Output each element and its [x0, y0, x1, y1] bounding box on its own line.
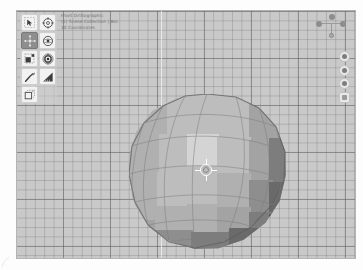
nav-button-camera[interactable] — [339, 78, 350, 89]
scale-corner-icon — [24, 53, 36, 65]
sphere-object[interactable] — [129, 94, 286, 249]
facet — [149, 230, 193, 254]
facet — [269, 138, 289, 184]
cursor-tick-north — [206, 159, 207, 164]
gizmo-axis-y-positive[interactable] — [340, 21, 346, 27]
facet — [167, 94, 212, 136]
gizmo-axis-x-negative[interactable] — [316, 21, 322, 27]
viewport-info-overlay: Front Orthographic (1) Scene Collection … — [61, 13, 118, 32]
viewport-3d[interactable]: Front Orthographic (1) Scene Collection … — [16, 10, 356, 259]
pencil-icon — [24, 71, 36, 83]
gizmo-axis-line-x — [321, 23, 332, 24]
rotate-gizmo-icon — [42, 35, 54, 47]
move-arrows-icon — [24, 35, 36, 47]
cursor-ring-inner — [203, 167, 209, 173]
zoom-icon — [342, 54, 347, 59]
cursor-tick-west — [195, 170, 200, 171]
nav-button-projection[interactable] — [339, 92, 350, 103]
facet — [159, 134, 189, 174]
facet — [269, 214, 291, 252]
cursor-tick-south — [206, 176, 207, 181]
tool-add-cube[interactable] — [21, 86, 38, 103]
corner-artifact — [1, 254, 11, 266]
projection-icon — [342, 95, 347, 100]
tool-tweak[interactable] — [21, 14, 38, 31]
viewport-toolbar[interactable] — [20, 13, 57, 104]
facet — [211, 94, 251, 139]
facet — [191, 232, 231, 254]
transform-rings-icon — [42, 53, 54, 65]
blender-window: Front Orthographic (1) Scene Collection … — [0, 0, 363, 270]
facet — [249, 140, 271, 182]
facet — [217, 137, 251, 175]
hand-pan-icon — [342, 68, 347, 73]
tool-scale[interactable] — [21, 50, 38, 67]
tool-cursor[interactable] — [39, 14, 56, 31]
nav-button-zoom[interactable] — [339, 51, 350, 62]
navigation-gizmo[interactable] — [313, 13, 353, 47]
3d-cursor — [198, 162, 214, 178]
tool-move[interactable] — [21, 32, 38, 49]
facet — [249, 94, 287, 142]
viewport-nav-buttons[interactable] — [339, 51, 350, 103]
gizmo-axis-z-negative[interactable] — [329, 33, 334, 38]
tool-rotate[interactable] — [39, 32, 56, 49]
facet — [157, 172, 189, 208]
tool-transform[interactable] — [39, 50, 56, 67]
crosshair-target-icon — [42, 17, 54, 29]
facet — [229, 228, 263, 254]
facet — [217, 173, 251, 209]
add-cube-icon — [24, 89, 36, 101]
gizmo-axis-z-positive[interactable] — [329, 14, 335, 20]
camera-icon — [342, 81, 347, 86]
cursor-tick-east — [212, 170, 217, 171]
tool-measure[interactable] — [39, 68, 56, 85]
nav-button-pan[interactable] — [339, 65, 350, 76]
facet — [269, 182, 289, 216]
tool-annotate[interactable] — [21, 68, 38, 85]
cursor-arrow-icon — [24, 17, 35, 28]
ruler-angle-icon — [42, 71, 54, 83]
viewport-info-line-3: 10 Coordinates — [61, 25, 118, 31]
